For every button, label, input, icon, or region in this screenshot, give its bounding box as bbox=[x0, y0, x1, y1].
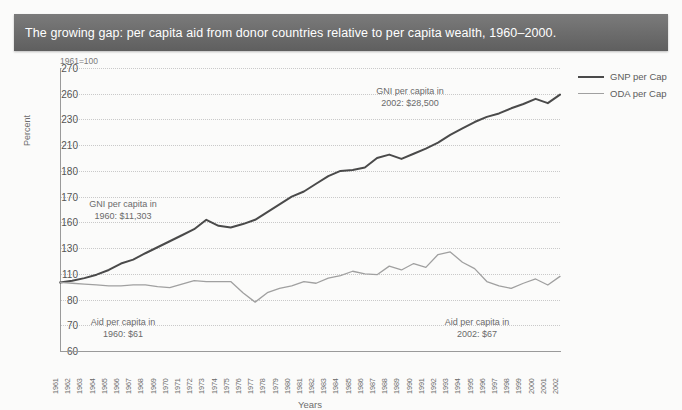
x-tick-label: 1963 bbox=[75, 378, 84, 394]
legend-swatch-oda-icon bbox=[578, 93, 604, 94]
x-tick-label: 1988 bbox=[380, 378, 389, 394]
x-tick-label: 1975 bbox=[222, 378, 231, 394]
x-tick-label: 1991 bbox=[417, 378, 426, 394]
x-tick-label: 1998 bbox=[502, 378, 511, 394]
legend: GNP per Cap ODA per Cap bbox=[578, 68, 682, 102]
x-tick-label: 1992 bbox=[429, 378, 438, 394]
x-tick-label: 1994 bbox=[453, 378, 462, 394]
annotation-gni-2002: GNI per capita in 2002: $28,500 bbox=[340, 86, 480, 109]
x-tick-label: 1995 bbox=[466, 378, 475, 394]
x-tick-label: 1976 bbox=[234, 378, 243, 394]
x-tick-label: 1961 bbox=[51, 378, 60, 394]
title-banner: The growing gap: per capita aid from don… bbox=[14, 14, 668, 51]
series-line-gnp bbox=[60, 95, 560, 283]
x-tick-label: 1971 bbox=[173, 378, 182, 394]
x-tick-label: 1990 bbox=[405, 378, 414, 394]
x-tick-label: 1974 bbox=[210, 378, 219, 394]
figure: Percent 1961=100 27026023021018017016013… bbox=[0, 51, 682, 401]
x-tick-label: 1982 bbox=[307, 378, 316, 394]
x-tick-label: 1985 bbox=[344, 378, 353, 394]
x-tick-label: 1979 bbox=[271, 378, 280, 394]
x-axis-ticks: 1961196219631964196519661967196819691970… bbox=[60, 354, 560, 394]
page-title: The growing gap: per capita aid from don… bbox=[14, 26, 556, 40]
x-tick-label: 1966 bbox=[112, 378, 121, 394]
x-tick-label: 1996 bbox=[478, 378, 487, 394]
x-tick-label: 1980 bbox=[283, 378, 292, 394]
x-tick-label: 1983 bbox=[319, 378, 328, 394]
x-tick-label: 1987 bbox=[368, 378, 377, 394]
x-tick-label: 2002 bbox=[551, 378, 560, 394]
x-tick-label: 1984 bbox=[331, 378, 340, 394]
x-tick-label: 1999 bbox=[514, 378, 523, 394]
x-tick-label: 1993 bbox=[441, 378, 450, 394]
annotation-aid-2002: Aid per capita in 2002: $67 bbox=[412, 317, 542, 340]
x-tick-label: 1965 bbox=[100, 378, 109, 394]
legend-item-gnp[interactable]: GNP per Cap bbox=[578, 68, 682, 85]
x-tick-label: 1981 bbox=[295, 378, 304, 394]
legend-swatch-gnp-icon bbox=[578, 76, 604, 78]
x-tick-label: 1973 bbox=[197, 378, 206, 394]
annotation-aid-1960: Aid per capita in 1960: $61 bbox=[58, 317, 188, 340]
x-tick-label: 1967 bbox=[124, 378, 133, 394]
annotation-gni-1960: GNI per capita in 1960: $11,303 bbox=[58, 199, 188, 222]
x-tick-label: 1969 bbox=[149, 378, 158, 394]
legend-item-oda[interactable]: ODA per Cap bbox=[578, 85, 682, 102]
x-tick-label: 1997 bbox=[490, 378, 499, 394]
x-tick-label: 2000 bbox=[527, 378, 536, 394]
x-tick-label: 1977 bbox=[246, 378, 255, 394]
x-tick-label: 2001 bbox=[539, 378, 548, 394]
x-tick-label: 1964 bbox=[88, 378, 97, 394]
x-axis-title: Years bbox=[0, 399, 620, 410]
x-tick-label: 1986 bbox=[356, 378, 365, 394]
x-tick-label: 1962 bbox=[63, 378, 72, 394]
x-tick-label: 1968 bbox=[136, 378, 145, 394]
x-tick-label: 1978 bbox=[258, 378, 267, 394]
legend-label-gnp: GNP per Cap bbox=[610, 71, 667, 82]
legend-label-oda: ODA per Cap bbox=[610, 88, 667, 99]
x-tick-label: 1970 bbox=[161, 378, 170, 394]
x-tick-label: 1972 bbox=[185, 378, 194, 394]
x-tick-label: 1989 bbox=[392, 378, 401, 394]
